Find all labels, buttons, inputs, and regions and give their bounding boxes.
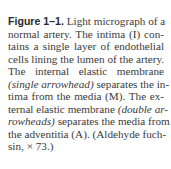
caption-italic-text: (double ar- <box>118 103 168 115</box>
caption-text: separates the in- <box>94 78 169 90</box>
caption-line-7: tima from the media (M). The ex- <box>8 90 164 103</box>
caption-text: ternal elastic membrane <box>8 103 118 115</box>
caption-line-11: sin, × 73.) <box>8 140 164 153</box>
figure-label: Figure 1–1. <box>8 15 64 27</box>
caption-text: the adventitia (A). (Aldehyde fuch- <box>8 128 166 140</box>
caption-line-6: (single arrowhead) separates the in- <box>8 78 164 91</box>
caption-line-4: cells lining the lumen of the artery. <box>8 53 164 66</box>
caption-text: sin, × 73.) <box>8 140 53 152</box>
caption-line-1: Figure 1–1. Light micrograph of a <box>8 15 164 28</box>
caption-text: Light micrograph of a <box>64 15 165 27</box>
caption-line-3: tains a single layer of endothelial <box>8 40 164 53</box>
caption-text: normal artery. The intima (I) con- <box>8 28 164 40</box>
figure-caption: Figure 1–1. Light micrograph of a normal… <box>8 15 164 153</box>
caption-text: separates the media from <box>55 115 170 127</box>
caption-line-9: rowheads) separates the media from <box>8 115 164 128</box>
caption-italic-text: rowheads) <box>8 115 55 127</box>
caption-line-8: ternal elastic membrane (double ar- <box>8 103 164 116</box>
caption-line-10: the adventitia (A). (Aldehyde fuch- <box>8 128 164 141</box>
caption-text: The internal elastic membrane <box>8 65 164 77</box>
caption-text: tima from the media (M). The ex- <box>8 90 164 102</box>
caption-line-2: normal artery. The intima (I) con- <box>8 28 164 41</box>
caption-text: cells lining the lumen of the artery. <box>8 53 164 65</box>
caption-line-5: The internal elastic membrane <box>8 65 164 78</box>
caption-text: tains a single layer of endothelial <box>8 40 164 52</box>
caption-italic-text: (single arrowhead) <box>8 78 94 90</box>
